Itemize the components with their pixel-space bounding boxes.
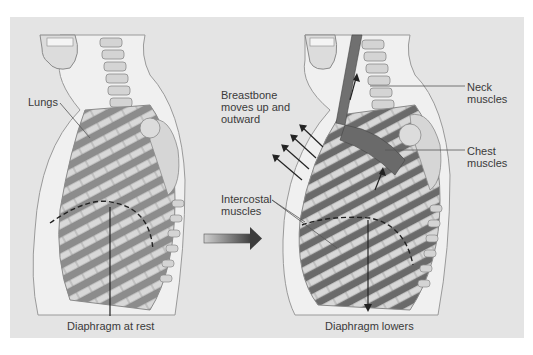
left-figure [33,35,185,316]
label-neck-muscles: Neck muscles [467,81,507,105]
label-diaphragm-at-rest: Diaphragm at rest [67,320,154,332]
right-arrow-icon [204,227,262,250]
label-breastbone: Breastbone moves up and outward [221,89,290,125]
right-figure [272,35,465,315]
label-diaphragm-lowers: Diaphragm lowers [325,320,414,332]
label-intercostal-muscles: Intercostal muscles [221,193,272,217]
breathing-mechanics-illustration [0,0,533,355]
label-lungs: Lungs [28,96,58,108]
label-chest-muscles: Chest muscles [467,145,507,169]
